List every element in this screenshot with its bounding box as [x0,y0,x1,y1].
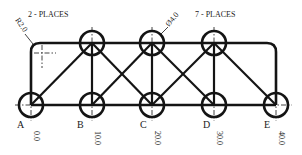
node-coord-a: 0.0 [32,131,41,141]
hole-leader [161,27,168,34]
node-label-a: A [17,119,25,130]
node-label-c: C [140,119,147,130]
outer-frame [31,43,276,105]
node-coord-e: 40.0 [277,131,286,145]
node-coord-d: 30.0 [215,131,224,145]
truss-drawing: 2 - PLACES R2.0 7 - PLACES Ø4.0 A B C D … [0,0,302,155]
node-label-e: E [264,119,270,130]
node-label-b: B [77,119,84,130]
radius-leader [25,34,33,44]
corner-center-mark [34,45,56,68]
node-coord-b: 10.0 [93,131,102,145]
radius-note: 2 - PLACES [28,10,68,19]
node-label-d: D [203,119,210,130]
hole-note: 7 - PLACES [195,10,235,19]
hole-value: Ø4.0 [164,10,181,28]
node-coord-c: 20.0 [153,131,162,145]
